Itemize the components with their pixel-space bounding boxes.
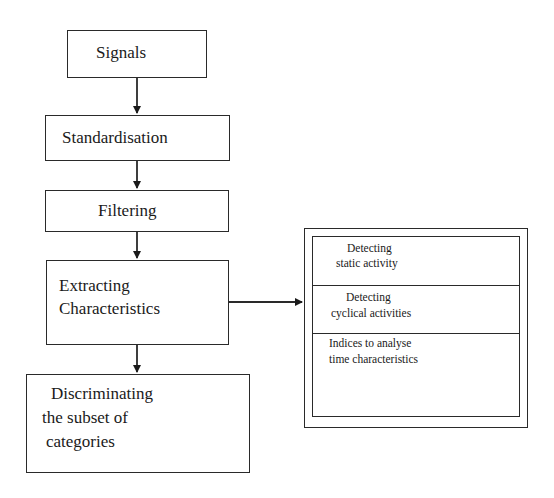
section-time-line1: Indices to analyse <box>329 336 411 351</box>
section-static-line1: Detecting <box>347 241 392 256</box>
panel-divider <box>313 333 519 334</box>
section-static-line2: static activity <box>336 256 398 271</box>
characteristics-panel: Detecting static activity Detecting cycl… <box>312 236 520 417</box>
node-discriminating-line1: Discriminating <box>51 384 153 404</box>
section-time-line2: time characteristics <box>329 352 418 367</box>
node-filtering: Filtering <box>45 190 229 232</box>
node-extracting-characteristics: Extracting Characteristics <box>46 260 229 345</box>
node-signals-label: Signals <box>96 43 146 63</box>
section-cyclical-line2: cyclical activities <box>331 306 411 321</box>
node-discriminating-line2: the subset of <box>42 408 128 428</box>
panel-divider <box>313 285 519 286</box>
section-cyclical-line1: Detecting <box>346 290 391 305</box>
node-standardisation-label: Standardisation <box>62 128 168 148</box>
node-standardisation: Standardisation <box>45 115 230 161</box>
node-discriminating-categories: Discriminating the subset of categories <box>26 374 250 473</box>
node-extracting-line2: Characteristics <box>59 299 160 319</box>
node-extracting-line1: Extracting <box>59 276 130 296</box>
node-signals: Signals <box>67 30 207 78</box>
node-discriminating-line3: categories <box>46 432 115 452</box>
node-filtering-label: Filtering <box>98 201 157 221</box>
